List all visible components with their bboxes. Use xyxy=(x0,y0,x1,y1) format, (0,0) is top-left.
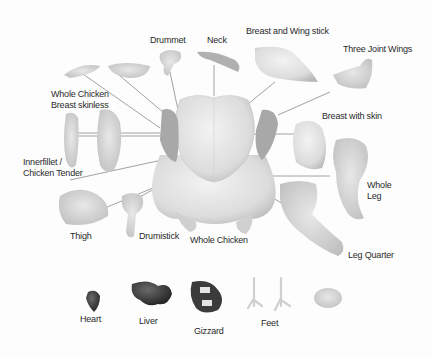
label-breast-and-wing-stick: Breast and Wing stick xyxy=(246,26,329,37)
label-gizzard: Gizzard xyxy=(194,326,224,337)
skinless-breast-piece xyxy=(97,109,121,172)
label-three-joint-wings: Three Joint Wings xyxy=(343,44,412,55)
feet-pieces xyxy=(248,278,290,310)
inner-fillet-top-1 xyxy=(64,65,100,78)
inner-fillet-top-2 xyxy=(108,63,150,78)
extra-part-piece xyxy=(314,288,342,308)
gizzard-piece xyxy=(191,281,222,313)
organs xyxy=(86,278,342,313)
label-leg-quarter: Leg Quarter xyxy=(348,250,394,261)
whole-chicken-illustration xyxy=(152,95,278,234)
label-innerfillet-chicken-tender: Innerfillet / Chicken Tender xyxy=(23,157,83,179)
liver-piece xyxy=(132,281,172,305)
whole-leg-piece xyxy=(333,138,368,219)
label-thigh: Thigh xyxy=(70,231,92,242)
label-whole-chicken-breast-skinless: Whole Chicken Breast skinless xyxy=(51,89,109,111)
top-parts xyxy=(64,47,372,89)
breast-wing-stick-piece xyxy=(255,47,318,82)
label-breast-with-skin: Breast with skin xyxy=(322,111,382,122)
label-whole-chicken: Whole Chicken xyxy=(190,235,248,246)
thigh-piece xyxy=(59,190,108,225)
label-feet: Feet xyxy=(261,318,278,329)
label-liver: Liver xyxy=(139,316,158,327)
heart-piece xyxy=(86,291,100,312)
chicken-cuts-diagram: Drummet Neck Breast and Wing stick Three… xyxy=(0,0,431,358)
label-drumstick: Drumistick xyxy=(139,231,179,242)
label-drummet: Drummet xyxy=(150,35,186,46)
leg-quarter-piece xyxy=(280,181,343,256)
breast-with-skin-piece xyxy=(293,121,326,169)
neck-piece xyxy=(197,52,239,72)
label-heart: Heart xyxy=(80,314,101,325)
three-joint-wing-piece xyxy=(333,59,372,89)
label-whole-leg: Whole Leg xyxy=(367,180,392,202)
label-neck: Neck xyxy=(207,35,227,46)
